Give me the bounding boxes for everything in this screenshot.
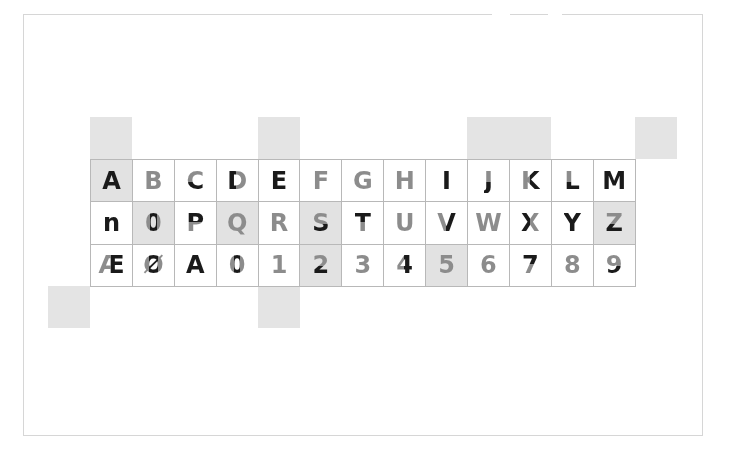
frame-gap xyxy=(548,12,562,16)
glyph-char: 1 xyxy=(271,253,288,277)
glyph-char: 2 xyxy=(313,253,330,277)
frame-gap xyxy=(492,12,510,16)
glyph-cell: Y xyxy=(552,202,594,244)
glyph-char: 6 xyxy=(480,253,497,277)
glyph-cell: K xyxy=(510,160,552,202)
glyph-char: F xyxy=(313,169,329,193)
glyph-char: T xyxy=(355,211,371,235)
glyph-cell: L xyxy=(552,160,594,202)
glyph-cell: P xyxy=(175,202,217,244)
glyph-char: B xyxy=(144,169,162,193)
glyph-char: X xyxy=(521,211,540,235)
glyph-char: 7 xyxy=(522,253,539,277)
glyph-char: L xyxy=(565,169,580,193)
block-top-right xyxy=(635,117,677,159)
glyph-cell: Ø xyxy=(133,245,175,287)
glyph-cell: B xyxy=(133,160,175,202)
glyph-cell: C xyxy=(175,160,217,202)
glyph-char: W xyxy=(475,211,501,235)
glyph-cell: Q xyxy=(217,202,259,244)
glyph-cell: U xyxy=(384,202,426,244)
glyph-cell: 1 xyxy=(259,245,301,287)
block-top-a xyxy=(90,117,132,159)
glyph-char: M xyxy=(602,169,626,193)
glyph-cell: 7 xyxy=(510,245,552,287)
glyph-cell: 6 xyxy=(468,245,510,287)
glyph-char: Q xyxy=(227,211,247,235)
glyph-char: Ȧ xyxy=(186,253,205,277)
glyph-cell: J xyxy=(468,160,510,202)
glyph-char: n xyxy=(103,211,120,235)
character-grid: ABCDEFGHIJKLMn0PQRSTUVWXYZÆØȦ0123456789 xyxy=(90,159,636,287)
glyph-char: R xyxy=(270,211,288,235)
glyph-char: D xyxy=(227,169,247,193)
glyph-char: 4 xyxy=(396,253,413,277)
glyph-char: 9 xyxy=(606,253,623,277)
glyph-char: G xyxy=(353,169,373,193)
glyph-char: K xyxy=(521,169,540,193)
glyph-cell: R xyxy=(259,202,301,244)
glyph-char: 0 xyxy=(145,211,162,235)
glyph-cell: 9 xyxy=(594,245,636,287)
glyph-cell: 4 xyxy=(384,245,426,287)
glyph-cell: n xyxy=(91,202,133,244)
glyph-cell: T xyxy=(342,202,384,244)
block-top-jk xyxy=(467,117,551,159)
glyph-char: 8 xyxy=(564,253,581,277)
glyph-char: C xyxy=(186,169,204,193)
glyph-char: Ø xyxy=(143,253,163,277)
glyph-char: H xyxy=(395,169,415,193)
glyph-char: S xyxy=(312,211,329,235)
glyph-cell: M xyxy=(594,160,636,202)
glyph-char: J xyxy=(484,169,493,193)
glyph-cell: I xyxy=(426,160,468,202)
glyph-char: Y xyxy=(564,211,581,235)
glyph-char: A xyxy=(102,169,121,193)
block-bottom-1 xyxy=(258,286,300,328)
glyph-char: E xyxy=(271,169,287,193)
glyph-cell: A xyxy=(91,160,133,202)
glyph-cell: Æ xyxy=(91,245,133,287)
glyph-cell: E xyxy=(259,160,301,202)
glyph-char: 3 xyxy=(354,253,371,277)
glyph-cell: W xyxy=(468,202,510,244)
glyph-cell: Ȧ xyxy=(175,245,217,287)
glyph-cell: 0 xyxy=(217,245,259,287)
glyph-cell: 0 xyxy=(133,202,175,244)
glyph-cell: 3 xyxy=(342,245,384,287)
block-top-e xyxy=(258,117,300,159)
glyph-char: Z xyxy=(605,211,622,235)
glyph-cell: Z xyxy=(594,202,636,244)
glyph-cell: 2 xyxy=(300,245,342,287)
block-bottom-left xyxy=(48,286,90,328)
glyph-char: I xyxy=(442,169,451,193)
glyph-char: 0 xyxy=(229,253,246,277)
glyph-cell: F xyxy=(300,160,342,202)
glyph-char: 5 xyxy=(438,253,455,277)
glyph-char: U xyxy=(395,211,415,235)
glyph-char: Æ xyxy=(98,253,124,277)
glyph-cell: G xyxy=(342,160,384,202)
glyph-cell: 5 xyxy=(426,245,468,287)
glyph-cell: H xyxy=(384,160,426,202)
glyph-char: P xyxy=(186,211,204,235)
glyph-cell: S xyxy=(300,202,342,244)
glyph-cell: D xyxy=(217,160,259,202)
glyph-cell: 8 xyxy=(552,245,594,287)
glyph-cell: V xyxy=(426,202,468,244)
glyph-char: V xyxy=(437,211,456,235)
glyph-cell: X xyxy=(510,202,552,244)
